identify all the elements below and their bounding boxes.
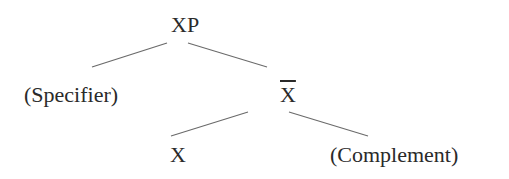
node-xp: XP xyxy=(171,14,199,36)
edge-xp-xbar xyxy=(188,43,267,67)
x-bar-tree-diagram: XP (Specifier) X X (Complement) xyxy=(0,0,509,179)
edge-xbar-complement xyxy=(289,112,368,136)
node-x-head: X xyxy=(170,144,186,166)
edge-xp-specifier xyxy=(92,43,167,67)
node-complement: (Complement) xyxy=(330,144,458,166)
node-x-bar: X xyxy=(280,84,296,106)
edge-xbar-x xyxy=(171,112,248,136)
node-specifier: (Specifier) xyxy=(24,84,118,106)
